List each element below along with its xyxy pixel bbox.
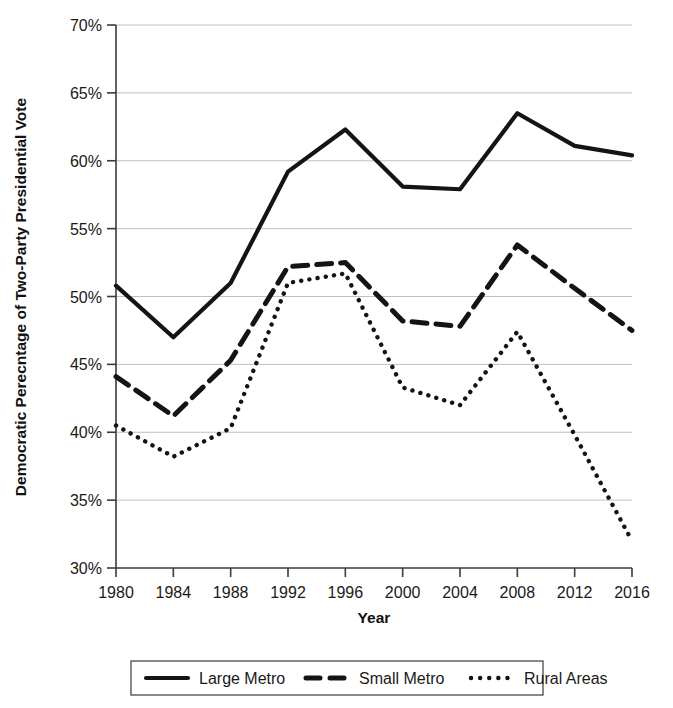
y-tick-label: 35% [70, 492, 102, 509]
x-axis-tick-labels: 1980198419881992199620002004200820122016 [98, 584, 650, 601]
y-tick-label: 45% [70, 356, 102, 373]
legend-label[interactable]: Rural Areas [524, 670, 608, 687]
y-axis-tick-labels: 30%35%40%45%50%55%60%65%70% [70, 17, 102, 577]
x-tick-label: 1992 [270, 584, 306, 601]
y-tick-label: 50% [70, 289, 102, 306]
y-axis-ticks [107, 25, 116, 568]
y-tick-label: 30% [70, 560, 102, 577]
chart-figure: 30%35%40%45%50%55%60%65%70% 198019841988… [0, 0, 673, 708]
x-tick-label: 1980 [98, 584, 134, 601]
x-tick-label: 1984 [156, 584, 192, 601]
gridlines [116, 25, 632, 500]
x-tick-label: 2000 [385, 584, 421, 601]
x-axis-title: Year [358, 609, 391, 626]
y-tick-label: 60% [70, 153, 102, 170]
y-tick-label: 65% [70, 85, 102, 102]
y-tick-label: 40% [70, 424, 102, 441]
chart-canvas: 30%35%40%45%50%55%60%65%70% 198019841988… [0, 0, 673, 708]
x-tick-label: 2016 [614, 584, 650, 601]
legend-items: Large MetroSmall MetroRural Areas [146, 670, 608, 687]
y-tick-label: 70% [70, 17, 102, 34]
x-tick-label: 1988 [213, 584, 249, 601]
x-tick-label: 2008 [500, 584, 536, 601]
y-tick-label: 55% [70, 221, 102, 238]
x-axis-ticks [116, 568, 632, 577]
legend-label[interactable]: Large Metro [199, 670, 285, 687]
y-axis-title: Democratic Perecntage of Two-Party Presi… [12, 98, 29, 497]
x-tick-label: 1996 [328, 584, 364, 601]
x-tick-label: 2012 [557, 584, 593, 601]
series-line-rural-areas [116, 273, 632, 540]
x-tick-label: 2004 [442, 584, 478, 601]
data-series-group [116, 113, 632, 541]
legend: Large MetroSmall MetroRural Areas [131, 661, 608, 695]
series-line-large-metro [116, 113, 632, 337]
legend-label[interactable]: Small Metro [359, 670, 444, 687]
